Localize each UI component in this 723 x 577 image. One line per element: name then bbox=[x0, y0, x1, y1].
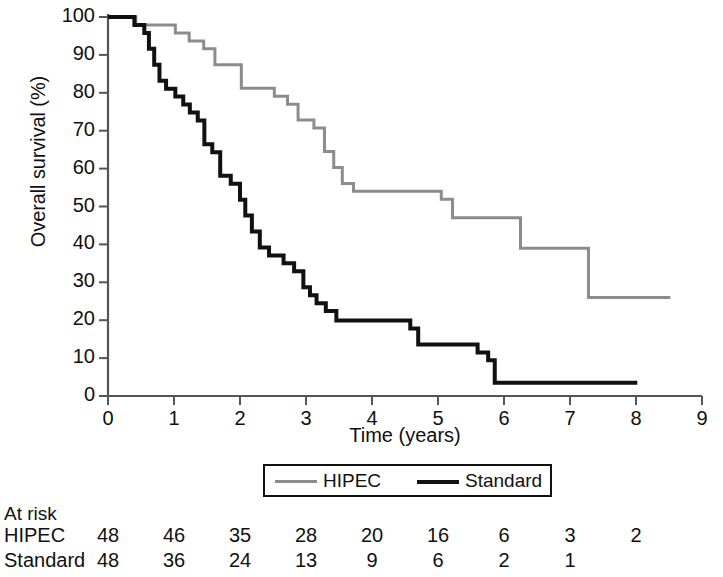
x-tick-label: 9 bbox=[687, 407, 717, 430]
y-axis-ticks bbox=[99, 17, 108, 396]
at-risk-value-hipec: 28 bbox=[288, 524, 324, 547]
at-risk-row-label-standard: Standard bbox=[4, 549, 85, 572]
y-axis-title: Overall survival (%) bbox=[27, 62, 50, 262]
at-risk-table: At risk HIPEC Standard 48463528201663248… bbox=[0, 503, 723, 577]
at-risk-row-label-hipec: HIPEC bbox=[4, 524, 65, 547]
at-risk-value-standard: 13 bbox=[288, 549, 324, 572]
x-tick-label: 4 bbox=[357, 407, 387, 430]
x-tick-label: 3 bbox=[291, 407, 321, 430]
at-risk-value-hipec: 2 bbox=[618, 524, 654, 547]
at-risk-value-standard: 24 bbox=[222, 549, 258, 572]
legend-label-hipec: HIPEC bbox=[323, 470, 381, 492]
at-risk-value-hipec: 16 bbox=[420, 524, 456, 547]
y-tick-label: 10 bbox=[49, 345, 95, 368]
axis-lines bbox=[108, 14, 702, 396]
y-tick-label: 80 bbox=[49, 80, 95, 103]
x-axis-ticks bbox=[108, 396, 702, 405]
y-tick-label: 60 bbox=[49, 156, 95, 179]
at-risk-value-hipec: 48 bbox=[90, 524, 126, 547]
at-risk-value-standard: 9 bbox=[354, 549, 390, 572]
at-risk-value-standard: 6 bbox=[420, 549, 456, 572]
x-tick-label: 8 bbox=[621, 407, 651, 430]
at-risk-title: At risk bbox=[4, 503, 57, 525]
curve-hipec bbox=[108, 17, 670, 297]
at-risk-value-hipec: 20 bbox=[354, 524, 390, 547]
y-tick-label: 100 bbox=[49, 4, 95, 27]
y-tick-label: 50 bbox=[49, 194, 95, 217]
at-risk-value-hipec: 3 bbox=[552, 524, 588, 547]
x-tick-label: 5 bbox=[423, 407, 453, 430]
legend-swatch-standard bbox=[417, 480, 459, 484]
x-tick-label: 6 bbox=[489, 407, 519, 430]
y-tick-label: 90 bbox=[49, 42, 95, 65]
x-tick-label: 0 bbox=[93, 407, 123, 430]
at-risk-value-hipec: 35 bbox=[222, 524, 258, 547]
x-tick-label: 7 bbox=[555, 407, 585, 430]
y-tick-label: 40 bbox=[49, 231, 95, 254]
legend-label-standard: Standard bbox=[465, 470, 542, 492]
at-risk-value-hipec: 6 bbox=[486, 524, 522, 547]
y-tick-label: 20 bbox=[49, 307, 95, 330]
legend-swatch-hipec bbox=[275, 480, 317, 483]
at-risk-value-hipec: 46 bbox=[156, 524, 192, 547]
at-risk-value-standard: 2 bbox=[486, 549, 522, 572]
at-risk-value-standard: 36 bbox=[156, 549, 192, 572]
x-tick-label: 2 bbox=[225, 407, 255, 430]
at-risk-value-standard: 48 bbox=[90, 549, 126, 572]
at-risk-value-standard: 1 bbox=[552, 549, 588, 572]
y-tick-label: 70 bbox=[49, 118, 95, 141]
curve-standard bbox=[108, 17, 637, 383]
y-tick-label: 30 bbox=[49, 269, 95, 292]
y-tick-label: 0 bbox=[49, 383, 95, 406]
legend: HIPEC Standard bbox=[263, 464, 552, 497]
x-tick-label: 1 bbox=[159, 407, 189, 430]
kaplan-meier-figure: Overall survival (%) Time (years) 010203… bbox=[0, 0, 723, 577]
